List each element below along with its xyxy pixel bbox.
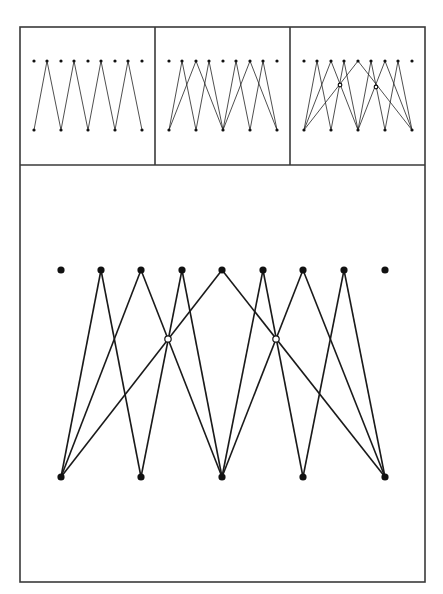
hollow-node-H1 [374, 85, 378, 89]
node-T8 [381, 266, 388, 273]
edge-T6-B4 [250, 61, 277, 130]
graph-figure [0, 0, 443, 594]
edge-T5-B3 [236, 61, 250, 130]
node-B3 [248, 128, 251, 131]
edge-B3-T7 [115, 61, 128, 130]
edge-B2-T5 [223, 61, 236, 130]
edge-B1-T3 [331, 61, 344, 130]
node-T6 [248, 59, 251, 62]
edge-B0-T1 [169, 61, 182, 130]
edge-B0-T4 [304, 61, 358, 130]
node-T1 [45, 59, 48, 62]
node-T0 [32, 59, 35, 62]
node-B1 [194, 128, 197, 131]
large-panel [57, 266, 388, 480]
edge-T3-B2 [74, 61, 88, 130]
node-T1 [315, 59, 318, 62]
node-B2 [218, 473, 225, 480]
edge-B2-T6 [358, 61, 385, 130]
node-T2 [329, 59, 332, 62]
node-B1 [137, 473, 144, 480]
node-B0 [57, 473, 64, 480]
hollow-node-H0 [165, 336, 171, 342]
node-B4 [381, 473, 388, 480]
node-B3 [113, 128, 116, 131]
node-T5 [259, 266, 266, 273]
large-graph [57, 266, 388, 480]
node-T1 [180, 59, 183, 62]
edge-B3-T7 [385, 61, 398, 130]
node-T2 [137, 266, 144, 273]
node-T2 [194, 59, 197, 62]
edge-T5-B3 [371, 61, 385, 130]
node-B3 [299, 473, 306, 480]
node-T4 [218, 266, 225, 273]
node-B0 [302, 128, 305, 131]
edge-T2-B2 [141, 270, 222, 477]
node-T5 [99, 59, 102, 62]
node-B4 [140, 128, 143, 131]
edge-T4-B4 [358, 61, 412, 130]
node-T1 [97, 266, 104, 273]
node-B3 [383, 128, 386, 131]
edge-T1-B1 [182, 61, 196, 130]
node-T4 [86, 59, 89, 62]
edge-B1-T3 [141, 270, 182, 477]
node-T0 [57, 266, 64, 273]
edge-B0-T2 [304, 61, 331, 130]
edge-B3-T7 [303, 270, 344, 477]
edge-T7-B4 [128, 61, 142, 130]
small-panel-3 [302, 59, 413, 131]
node-B2 [356, 128, 359, 131]
node-B4 [275, 128, 278, 131]
node-B0 [167, 128, 170, 131]
edge-T3-B2 [209, 61, 223, 130]
edge-T5-B3 [263, 270, 303, 477]
edge-B0-T1 [34, 61, 47, 130]
node-T3 [178, 266, 185, 273]
node-B2 [86, 128, 89, 131]
node-T6 [383, 59, 386, 62]
edge-B1-T3 [196, 61, 209, 130]
edge-T1-B1 [317, 61, 331, 130]
edge-T2-B2 [196, 61, 223, 130]
edge-T3-B2 [344, 61, 358, 130]
edge-B0-T2 [61, 270, 141, 477]
edge-B2-T5 [222, 270, 263, 477]
small-panels [32, 59, 413, 131]
node-T8 [140, 59, 143, 62]
edge-B0-T1 [61, 270, 101, 477]
outer-frame [20, 27, 425, 582]
edge-B0-T4 [61, 270, 222, 477]
node-T4 [356, 59, 359, 62]
node-T5 [369, 59, 372, 62]
node-B1 [59, 128, 62, 131]
edge-B0-T1 [304, 61, 317, 130]
node-T3 [72, 59, 75, 62]
edge-B3-T7 [250, 61, 263, 130]
node-T7 [396, 59, 399, 62]
edge-B2-T5 [358, 61, 371, 130]
small-panel-1 [32, 59, 143, 131]
node-T7 [126, 59, 129, 62]
node-T8 [275, 59, 278, 62]
edge-B0-T2 [169, 61, 196, 130]
node-T0 [167, 59, 170, 62]
edge-B2-T6 [223, 61, 250, 130]
node-T7 [261, 59, 264, 62]
hollow-node-H1 [273, 336, 279, 342]
node-B0 [32, 128, 35, 131]
node-T3 [207, 59, 210, 62]
node-B2 [221, 128, 224, 131]
edge-B2-T5 [88, 61, 101, 130]
panel-frames [20, 27, 425, 582]
edge-T3-B2 [182, 270, 222, 477]
edge-T7-B4 [344, 270, 385, 477]
edge-T6-B4 [303, 270, 385, 477]
node-T6 [299, 266, 306, 273]
node-B4 [410, 128, 413, 131]
hollow-node-H0 [338, 83, 342, 87]
small-panel-2 [167, 59, 278, 131]
node-T4 [221, 59, 224, 62]
edge-T7-B4 [263, 61, 277, 130]
